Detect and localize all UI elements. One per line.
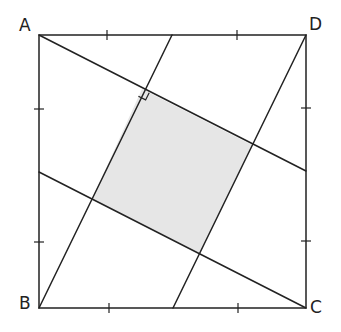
vertex-label-b: B [19, 293, 31, 313]
geometry-diagram: A D B C [0, 0, 341, 332]
vertex-label-c: C [310, 297, 322, 317]
vertex-label-d: D [309, 14, 322, 34]
inner-square [92, 89, 252, 253]
vertex-label-a: A [19, 15, 31, 35]
